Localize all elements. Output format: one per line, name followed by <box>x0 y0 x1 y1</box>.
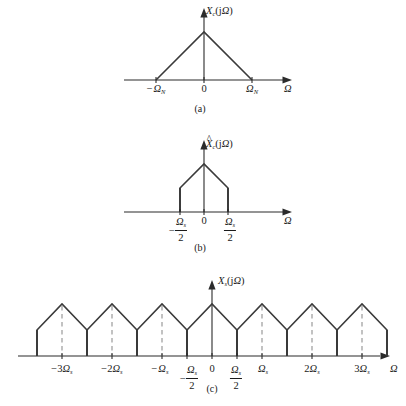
panel-c-signal-label: Xs(jΩ) <box>218 276 244 287</box>
panel-b-caption: (b) <box>194 243 206 253</box>
panel-c-tick-pos-3-omega-s: 3Ωs <box>354 364 369 375</box>
panel-c-tick-neg-2-omega-s: −2Ωs <box>101 364 122 375</box>
panel-c-tick-neg-half-omega-s: −Ωs2 <box>180 364 198 391</box>
panel-b-signal-label: ^Xc(jΩ) <box>206 139 233 150</box>
panel-b-axis-label: Ω <box>284 216 292 227</box>
panel-c-tick-zero: 0 <box>209 364 214 375</box>
panel-a-axis-label: Ω <box>284 84 292 95</box>
hat-accent: ^ <box>207 134 212 144</box>
panel-c-tick-neg-3-omega-s: −3Ωs <box>51 364 72 375</box>
sampling-spectra-figure: Xc(jΩ) − ΩN 0 ΩN Ω (a) ^Xc(jΩ) −Ωs2 0 Ωs… <box>0 0 406 406</box>
panel-b-tick-zero: 0 <box>201 216 206 227</box>
panel-b-tick-pos-half-omega-s: Ωs2 <box>224 216 236 243</box>
panel-c-plot <box>10 272 400 364</box>
panel-c-axis-label: Ω <box>390 364 398 375</box>
panel-c-tick-pos-omega-s: Ωs <box>258 364 268 375</box>
panel-a-tick-zero: 0 <box>201 84 206 95</box>
panel-b-tick-neg-half-omega-s: −Ωs2 <box>169 216 187 243</box>
panel-a-plot <box>118 4 298 96</box>
panel-a-tick-pos-omega-n: ΩN <box>246 84 258 95</box>
panel-c-tick-pos-2-omega-s: 2Ωs <box>304 364 319 375</box>
panel-c-tick-pos-half-omega-s: Ωs2 <box>230 364 242 391</box>
panel-c-tick-neg-omega-s: − Ωs <box>152 364 169 375</box>
panel-a-signal-label: Xc(jΩ) <box>206 6 233 17</box>
panel-a-tick-neg-omega-n: − ΩN <box>147 84 166 95</box>
panel-a-caption: (a) <box>194 104 205 114</box>
panel-c-caption: (c) <box>206 384 217 394</box>
